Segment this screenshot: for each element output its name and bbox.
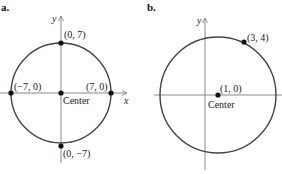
panel-a: a. y x (0, 7) (−7, 0) (7, 0) (0, −7) Cen…	[0, 1, 129, 163]
circle-diagrams: a. y x (0, 7) (−7, 0) (7, 0) (0, −7) Cen…	[0, 0, 282, 174]
y-axis-label-b: y	[196, 15, 202, 26]
point-3-4	[241, 39, 246, 44]
center-label-a: Center	[63, 95, 90, 106]
point-neg7-0	[8, 90, 13, 95]
point-3-4-label: (3, 4)	[247, 32, 269, 44]
panel-b: b. y (3, 4) (1, 0) Center	[147, 1, 282, 170]
point-1-0-label: (1, 0)	[220, 83, 242, 95]
point-7-0	[108, 90, 113, 95]
x-axis-label: x	[123, 95, 129, 106]
point-0-7	[58, 40, 63, 45]
point-7-0-label: (7, 0)	[86, 81, 108, 93]
panel-b-label: b.	[147, 1, 156, 13]
point-0-7-label: (0, 7)	[64, 29, 86, 41]
point-neg7-0-label: (−7, 0)	[14, 81, 41, 93]
point-0-neg7-label: (0, −7)	[63, 148, 90, 160]
panel-a-label: a.	[1, 1, 10, 13]
y-axis-label: y	[51, 13, 57, 24]
center-label-b: Center	[208, 99, 235, 110]
